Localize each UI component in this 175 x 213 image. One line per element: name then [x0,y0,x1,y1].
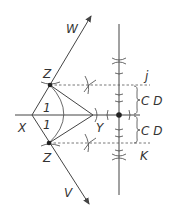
segment-zy-bottom [49,115,93,143]
cross-mark-j [84,76,96,94]
label-v: V [64,186,73,200]
point-intersection [116,112,122,118]
label-j: j [143,69,149,83]
arc-z [49,85,64,143]
segment-zy-top [50,85,93,115]
label-k: K [140,149,149,163]
label-cd-bottom: C D [141,124,162,138]
point-z-top [48,83,53,88]
label-x: X [17,121,27,135]
label-z-top: Z [42,67,52,81]
label-cd-top: C D [141,94,162,108]
brace-top [134,86,140,114]
label-z-bottom: Z [42,151,52,165]
label-w: W [66,22,79,36]
construction-diagram: W V Z Z X Y 1 1 j K C D C D [0,0,175,213]
label-y: Y [96,121,105,135]
label-one-bottom: 1 [43,118,51,132]
ray-w [32,16,91,115]
point-z-bottom [47,141,52,146]
label-one-top: 1 [43,101,51,115]
brace-bottom [134,116,140,143]
